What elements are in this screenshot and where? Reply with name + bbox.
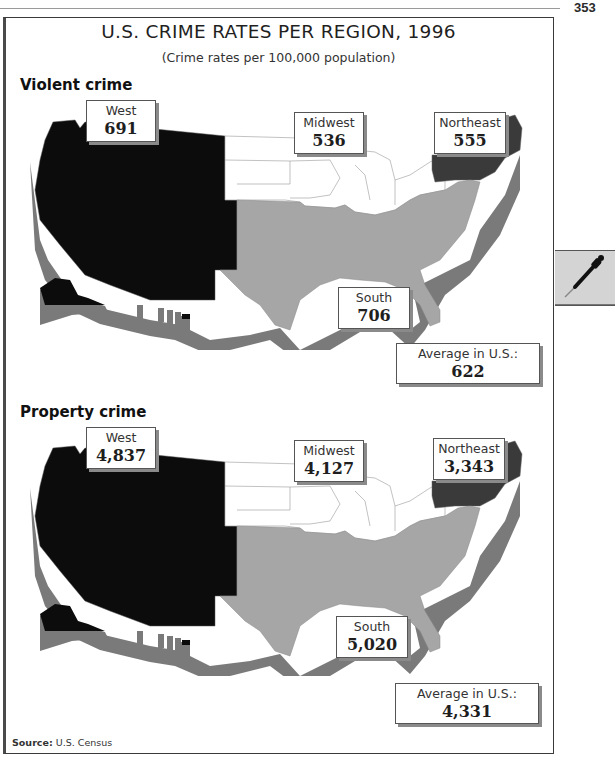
property-callout-west: West 4,837	[86, 427, 156, 469]
region-value: 555	[435, 131, 505, 151]
region-label: West	[87, 428, 155, 446]
chart-title: U.S. CRIME RATES PER REGION, 1996	[0, 21, 557, 42]
region-label: Midwest	[295, 441, 363, 459]
violent-callout-midwest: Midwest 536	[294, 112, 364, 154]
region-value: 5,020	[337, 635, 407, 655]
source-note: Source: U.S. Census	[12, 737, 112, 748]
property-callout-midwest: Midwest 4,127	[294, 440, 364, 482]
region-value: 4,127	[295, 459, 363, 479]
region-label: South	[339, 288, 409, 306]
property-callout-south: South 5,020	[336, 616, 408, 658]
property-callout-northeast: Northeast 3,343	[433, 438, 505, 480]
average-value: 622	[397, 362, 539, 382]
region-label: Midwest	[295, 113, 363, 131]
region-west	[35, 446, 237, 626]
region-label: West	[87, 101, 155, 119]
violent-callout-south: South 706	[338, 287, 410, 329]
average-label: Average in U.S.:	[397, 344, 539, 362]
page-number: 353	[574, 0, 596, 15]
region-label: Northeast	[435, 113, 505, 131]
violent-crime-heading: Violent crime	[20, 76, 132, 94]
header-rule	[0, 8, 560, 9]
side-tab-rule-bottom	[555, 304, 615, 305]
region-value: 536	[295, 131, 363, 151]
pen-icon	[555, 251, 615, 305]
property-crime-heading: Property crime	[20, 403, 146, 421]
region-west	[35, 120, 237, 300]
violent-callout-northeast: Northeast 555	[434, 112, 506, 154]
violent-callout-west: West 691	[86, 100, 156, 142]
property-callout-average: Average in U.S.: 4,331	[395, 683, 539, 724]
chart-subtitle: (Crime rates per 100,000 population)	[0, 50, 557, 65]
source-value: U.S. Census	[56, 737, 112, 748]
region-value: 706	[339, 306, 409, 326]
source-label: Source:	[12, 737, 53, 748]
violent-callout-average: Average in U.S.: 622	[396, 343, 540, 384]
region-value: 4,837	[87, 446, 155, 466]
average-label: Average in U.S.:	[396, 684, 538, 702]
region-label: Northeast	[434, 439, 504, 457]
region-value: 691	[87, 119, 155, 139]
region-label: South	[337, 617, 407, 635]
average-value: 4,331	[396, 702, 538, 722]
region-value: 3,343	[434, 457, 504, 477]
side-tab	[555, 250, 615, 306]
